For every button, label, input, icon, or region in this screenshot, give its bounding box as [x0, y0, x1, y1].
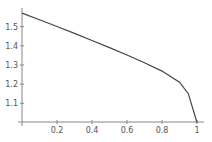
x-tick-label: 0.4: [86, 126, 99, 135]
y-tick-label: 1.3: [5, 61, 18, 70]
data-line: [22, 13, 197, 122]
x-axis: 0.20.40.60.81: [18, 120, 204, 135]
y-tick-label: 1.2: [5, 80, 18, 89]
y-axis: 1.11.21.31.41.5: [5, 8, 24, 126]
y-tick-label: 1.5: [5, 23, 18, 32]
x-tick-label: 0.2: [51, 126, 64, 135]
line-chart: 0.20.40.60.81 1.11.21.31.41.5: [0, 0, 212, 142]
x-tick-label: 0.6: [121, 126, 134, 135]
x-tick-label: 1: [194, 126, 199, 135]
y-tick-label: 1.4: [5, 42, 18, 51]
x-tick-label: 0.8: [156, 126, 169, 135]
y-tick-label: 1.1: [5, 99, 18, 108]
